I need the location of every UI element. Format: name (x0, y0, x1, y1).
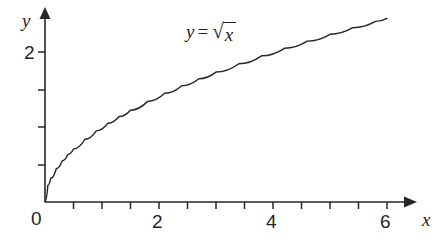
x-tick-label-2: 2 (152, 212, 163, 231)
radical-expression: √ x (212, 22, 236, 44)
figure-sqrt-plot: 0 2 4 6 2 y x y = √ x (0, 0, 446, 247)
radical-sign-icon: √ (212, 21, 224, 42)
data-curve-sqrt (45, 18, 387, 202)
x-axis-ticks (74, 202, 388, 209)
equation-radicand: x (223, 22, 236, 44)
equation-annotation: y = √ x (186, 22, 236, 44)
x-tick-label-6: 6 (380, 212, 391, 231)
equation-operator: = (197, 22, 208, 41)
x-tick-label-0: 0 (31, 209, 42, 228)
x-axis-name: x (422, 210, 430, 229)
y-axis (40, 7, 51, 202)
y-axis-ticks (38, 52, 45, 165)
equation-lhs: y (186, 22, 194, 41)
x-tick-label-4: 4 (266, 212, 277, 231)
x-axis (45, 197, 417, 208)
y-axis-name: y (22, 11, 30, 30)
y-tick-label-2: 2 (24, 43, 35, 62)
